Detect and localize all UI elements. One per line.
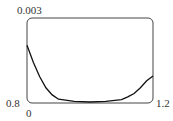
x-max-label: 1.2: [156, 98, 170, 109]
y-min-label: 0: [26, 108, 32, 119]
x-min-label: 0.8: [6, 98, 20, 109]
y-max-label: 0.003: [17, 5, 42, 16]
plot-frame: [27, 18, 153, 103]
data-curve: [27, 45, 153, 102]
plot-area: [0, 0, 173, 121]
